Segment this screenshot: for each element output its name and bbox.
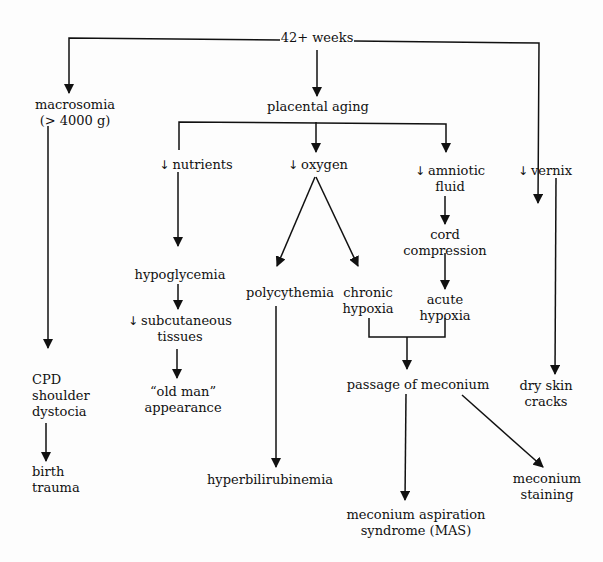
- node-decreased-oxygen: ↓oxygen: [288, 157, 348, 173]
- node-macrosomia: macrosomia (> 4000 g): [35, 97, 115, 129]
- decrease-arrow-icon: ↓: [518, 164, 528, 178]
- decrease-arrow-icon: ↓: [415, 164, 425, 178]
- node-acute-hypoxia: acute hypoxia: [419, 292, 470, 324]
- node-decreased-subcutaneous-tissues: ↓subcutaneous tissues: [128, 313, 232, 345]
- decrease-arrow-icon: ↓: [159, 158, 169, 172]
- node-passage-of-meconium: passage of meconium: [347, 377, 489, 393]
- node-chronic-hypoxia: chronic hypoxia: [342, 285, 393, 317]
- node-cpd-shoulder-dystocia: CPD shoulder dystocia: [32, 372, 90, 420]
- node-placental-aging: placental aging: [267, 99, 369, 115]
- diagram-canvas: 42+ weeks macrosomia (> 4000 g) placenta…: [0, 0, 603, 562]
- node-decreased-nutrients: ↓nutrients: [159, 157, 232, 173]
- node-cord-compression: cord compression: [403, 227, 486, 259]
- decrease-arrow-icon: ↓: [288, 158, 298, 172]
- node-hyperbilirubinemia: hyperbilirubinemia: [207, 472, 333, 488]
- node-meconium-aspiration-syndrome: meconium aspiration syndrome (MAS): [347, 507, 486, 539]
- node-hypoglycemia: hypoglycemia: [135, 267, 226, 283]
- decrease-arrow-icon: ↓: [128, 314, 138, 328]
- node-old-man-appearance: “old man” appearance: [144, 384, 221, 416]
- node-decreased-vernix: ↓vernix: [518, 163, 572, 179]
- node-decreased-amniotic-fluid: ↓amniotic fluid: [415, 163, 485, 195]
- node-birth-trauma: birth trauma: [32, 464, 80, 496]
- node-dry-skin-cracks: dry skin cracks: [519, 378, 572, 410]
- node-meconium-staining: meconium staining: [513, 471, 581, 503]
- node-polycythemia: polycythemia: [246, 285, 334, 301]
- node-42-weeks: 42+ weeks: [281, 30, 354, 46]
